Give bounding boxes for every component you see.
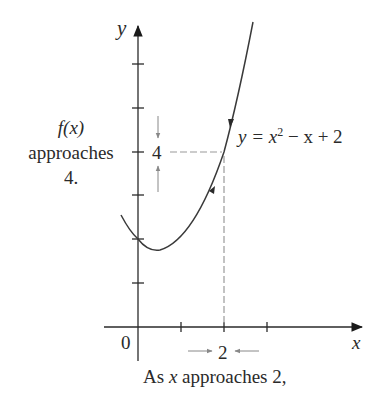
annotation-approaches: approaches	[18, 140, 124, 165]
annotation-four: 4.	[18, 165, 124, 190]
left-annotation: f(x) approaches 4.	[18, 115, 124, 190]
annotation-fx: f(x)	[18, 115, 124, 140]
y-axis-label: y	[117, 18, 126, 39]
graph-canvas	[0, 0, 386, 408]
bottom-annotation: As x approaches 2,	[143, 367, 287, 386]
origin-label: 0	[121, 333, 131, 352]
x-axis-label: x	[352, 333, 360, 352]
x-value-label: 2	[218, 343, 228, 362]
curve-equation: y = x2 − x + 2	[238, 126, 343, 146]
x-axis	[104, 322, 362, 332]
y-axis	[132, 26, 144, 361]
parabola-curve	[121, 22, 253, 250]
y-value-label: 4	[152, 143, 162, 162]
